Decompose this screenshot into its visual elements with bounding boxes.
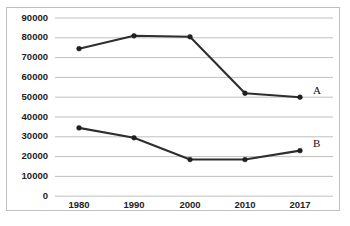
x-tick-label: 2010 <box>234 199 255 210</box>
data-point <box>298 148 303 153</box>
series-a-markers <box>77 33 303 99</box>
data-point <box>132 135 137 140</box>
y-tick-label: 60000 <box>22 71 48 82</box>
data-point <box>132 33 137 38</box>
y-tick-label: 40000 <box>22 111 48 122</box>
y-tick-label: 20000 <box>22 150 48 161</box>
data-point <box>188 34 193 39</box>
y-tick-label: 0 <box>43 190 48 201</box>
series-b-label: B <box>313 137 320 149</box>
y-tick-label: 80000 <box>22 31 48 42</box>
data-point <box>77 125 82 130</box>
data-point <box>243 157 248 162</box>
data-point <box>243 91 248 96</box>
figure-caption <box>96 216 344 225</box>
y-tick-label: 90000 <box>22 12 48 23</box>
y-axis-tick-labels: 90000 80000 70000 60000 50000 40000 3000… <box>22 12 48 201</box>
series-a: A <box>77 33 321 99</box>
y-tick-label: 30000 <box>22 130 48 141</box>
chart-svg: 90000 80000 70000 60000 50000 40000 3000… <box>0 0 350 226</box>
series-a-label: A <box>313 84 321 96</box>
data-point <box>188 157 193 162</box>
y-tick-label: 50000 <box>22 91 48 102</box>
x-tick-label: 2017 <box>289 199 310 210</box>
data-point <box>77 46 82 51</box>
x-axis-tick-labels: 1980 1990 2000 2010 2017 <box>68 199 310 210</box>
x-tick-label: 1990 <box>123 199 144 210</box>
y-tick-label: 10000 <box>22 170 48 181</box>
series-a-line <box>79 36 300 97</box>
y-tick-label: 70000 <box>22 51 48 62</box>
x-tick-label: 2000 <box>179 199 200 210</box>
line-chart: 90000 80000 70000 60000 50000 40000 3000… <box>0 0 350 226</box>
x-tick-label: 1980 <box>68 199 89 210</box>
data-point <box>298 95 303 100</box>
series-b-line <box>79 128 300 160</box>
